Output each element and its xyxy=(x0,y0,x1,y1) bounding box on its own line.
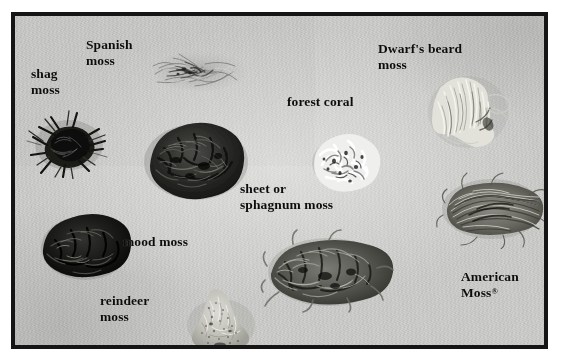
label-shag-moss: shag moss xyxy=(31,66,60,98)
label-mood-moss: mood moss xyxy=(123,234,188,250)
label-dwarfs-beard-moss: Dwarf's beard moss xyxy=(378,41,462,73)
photograph-frame: Spanish moss shag moss Dwarf's beard mos… xyxy=(11,12,548,349)
label-spanish-moss: Spanish moss xyxy=(86,37,133,69)
label-american-moss: American Moss® xyxy=(461,253,519,301)
label-sheet-sphagnum-moss: sheet or sphagnum moss xyxy=(240,181,333,213)
screenshot-root: Spanish moss shag moss Dwarf's beard mos… xyxy=(0,0,562,364)
label-american-moss-text: American Moss xyxy=(461,269,519,300)
registered-trademark-icon: ® xyxy=(491,286,497,295)
label-reindeer-moss: reindeer moss xyxy=(100,293,149,325)
label-forest-coral: forest coral xyxy=(287,94,354,110)
